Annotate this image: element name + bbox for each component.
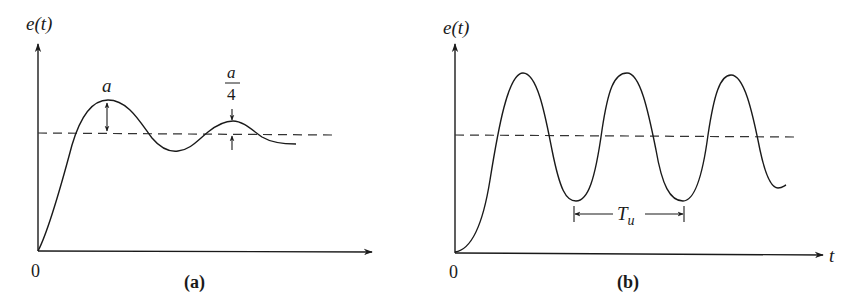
overshoot-label-a4-numerator: a (227, 63, 236, 82)
period-label: Tu (617, 203, 635, 228)
origin-label-b: 0 (449, 262, 458, 282)
setpoint-line-a (38, 133, 334, 135)
overshoot-label-a: a (102, 75, 112, 96)
figure-canvas: e(t) a a 4 0 (a) Tu e(t) t 0 (b) (0, 0, 857, 307)
panel-a: e(t) a a 4 0 (a) (26, 13, 372, 293)
y-axis-label-a: e(t) (26, 13, 52, 35)
overshoot-label-a4-denominator: 4 (227, 85, 236, 104)
response-curve-b (455, 73, 786, 252)
origin-label-a: 0 (31, 261, 40, 281)
setpoint-line-b (455, 135, 798, 137)
period-label-sub: u (628, 213, 635, 228)
caption-b: (b) (617, 272, 639, 293)
response-curve-a (38, 100, 296, 251)
x-axis-label-b: t (829, 245, 835, 266)
x-axis-a (38, 251, 372, 252)
x-axis-b (455, 253, 823, 255)
y-axis-label-b: e(t) (443, 17, 469, 39)
panel-b: Tu e(t) t 0 (b) (443, 17, 835, 293)
caption-a: (a) (184, 272, 205, 293)
